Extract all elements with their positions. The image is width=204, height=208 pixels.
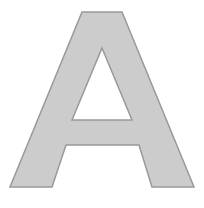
letter-a-glyph-svg <box>0 0 204 208</box>
glyph-canvas: A <box>0 0 204 208</box>
